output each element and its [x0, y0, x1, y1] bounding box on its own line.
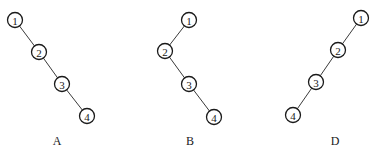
node-label: 2 — [36, 47, 42, 59]
node-label: 1 — [358, 13, 364, 25]
tree-node: 1 — [182, 13, 197, 28]
node-label: 4 — [211, 112, 217, 124]
edge-3-4 — [194, 90, 210, 111]
tree-node: 2 — [158, 44, 173, 59]
tree-b: 1234B — [158, 13, 222, 149]
tree-caption: B — [186, 134, 194, 148]
edge-2-3 — [43, 58, 57, 78]
edge-1-2 — [170, 26, 185, 45]
node-label: 3 — [59, 79, 65, 91]
tree-a: 1234A — [8, 13, 95, 149]
edge-2-3 — [320, 56, 334, 76]
edge-2-3 — [169, 57, 184, 78]
node-label: 3 — [186, 79, 192, 91]
edge-1-2 — [20, 26, 35, 46]
node-label: 1 — [186, 15, 192, 27]
node-label: 4 — [290, 110, 296, 122]
tree-node: 4 — [80, 109, 95, 124]
node-label: 4 — [84, 111, 90, 123]
tree-node: 1 — [8, 13, 23, 28]
edge-3-4 — [297, 88, 311, 109]
node-label: 1 — [12, 15, 18, 27]
tree-node: 2 — [32, 45, 47, 60]
node-label: 2 — [162, 46, 168, 58]
edge-1-2 — [342, 24, 356, 44]
tree-caption: D — [331, 134, 340, 148]
tree-node: 4 — [207, 110, 222, 125]
node-label: 2 — [335, 45, 341, 57]
tree-node: 1 — [354, 11, 369, 26]
tree-node: 3 — [55, 77, 70, 92]
tree-node: 3 — [309, 75, 324, 90]
tree-caption: A — [53, 134, 62, 148]
binary-trees-diagram: 1234A1234B1234D — [0, 0, 376, 152]
node-label: 3 — [313, 77, 319, 89]
tree-node: 3 — [182, 77, 197, 92]
tree-node: 4 — [286, 108, 301, 123]
edge-3-4 — [67, 90, 83, 110]
tree-d: 1234D — [286, 11, 369, 149]
tree-node: 2 — [331, 43, 346, 58]
